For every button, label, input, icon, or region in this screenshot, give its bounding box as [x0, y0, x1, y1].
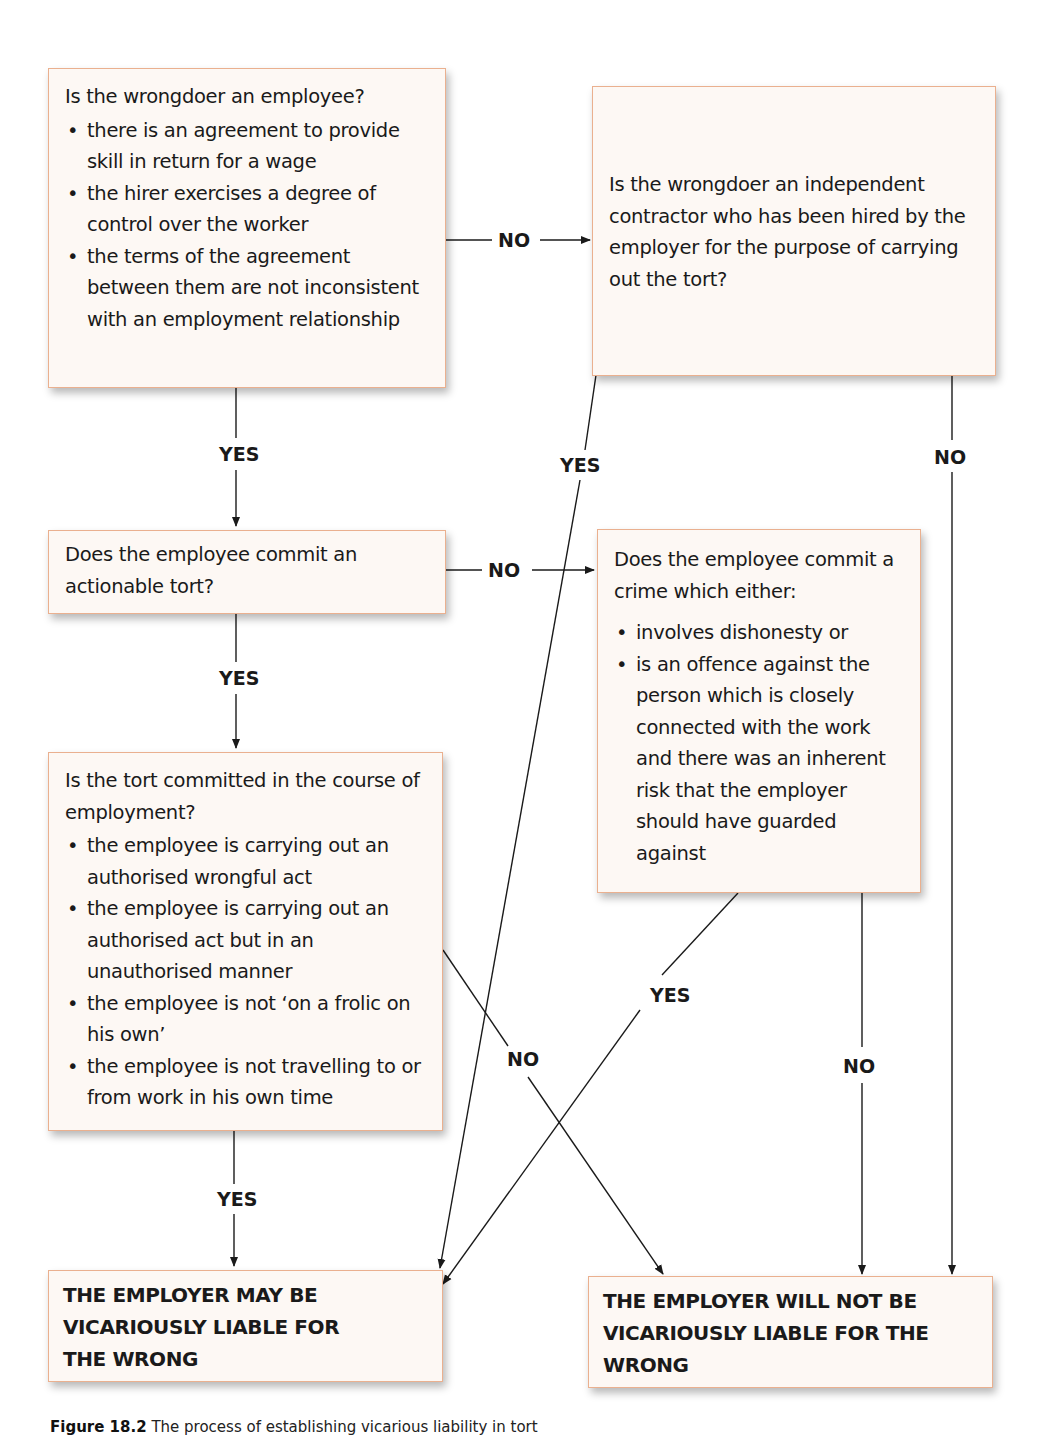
edge-label-contractor-yes: YES — [558, 454, 602, 476]
course-criteria-list: the employee is carrying out an authoris… — [65, 830, 434, 1114]
list-item: there is an agreement to provide skill i… — [87, 115, 431, 178]
list-item: the hirer exercises a degree of control … — [87, 178, 431, 241]
list-item: is an offence against the person which i… — [636, 649, 906, 870]
figure-caption: Figure 18.2 The process of establishing … — [50, 1418, 538, 1436]
edge-label-tort-no: NO — [486, 559, 522, 581]
list-item: the employee is carrying out an authoris… — [87, 893, 434, 988]
caption-label: Figure 18.2 — [50, 1418, 147, 1436]
edge-label-crime-yes: YES — [648, 984, 692, 1006]
employee-question: Is the wrongdoer an employee? — [65, 81, 431, 113]
list-item: the terms of the agreement between them … — [87, 241, 431, 336]
edge-label-crime-no: NO — [841, 1055, 877, 1077]
crime-criteria-list: involves dishonesty or is an offence aga… — [614, 617, 906, 869]
edge-label-employee-yes: YES — [217, 443, 261, 465]
crime-question-box: Does the employee commit a crime which e… — [597, 529, 921, 893]
crime-question: Does the employee commit a crime which e… — [614, 544, 906, 607]
caption-text: The process of establishing vicarious li… — [151, 1418, 537, 1436]
edge-label-employee-no: NO — [496, 229, 532, 251]
employee-question-box: Is the wrongdoer an employee? there is a… — [48, 68, 446, 388]
not-liable-outcome-text: THE EMPLOYER WILL NOT BE VICARIOUSLY LIA… — [603, 1289, 929, 1377]
liable-outcome-box: THE EMPLOYER MAY BE VICARIOUSLY LIABLE F… — [48, 1270, 443, 1382]
list-item: the employee is not ‘on a frolic on his … — [87, 988, 434, 1051]
contractor-question: Is the wrongdoer an independent contract… — [609, 169, 981, 295]
edge-label-tort-yes: YES — [217, 667, 261, 689]
contractor-question-box: Is the wrongdoer an independent contract… — [592, 86, 996, 376]
not-liable-outcome-box: THE EMPLOYER WILL NOT BE VICARIOUSLY LIA… — [588, 1276, 993, 1388]
employee-criteria-list: there is an agreement to provide skill i… — [65, 115, 431, 336]
edge-label-course-no: NO — [505, 1048, 541, 1070]
edge-label-contractor-no: NO — [932, 446, 968, 468]
edge-label-course-yes: YES — [215, 1188, 259, 1210]
list-item: the employee is carrying out an authoris… — [87, 830, 434, 893]
liable-outcome-text: THE EMPLOYER MAY BE VICARIOUSLY LIABLE F… — [63, 1283, 339, 1371]
course-question-box: Is the tort committed in the course of e… — [48, 752, 443, 1131]
tort-question-box: Does the employee commit an actionable t… — [48, 530, 446, 614]
list-item: involves dishonesty or — [636, 617, 906, 649]
list-item: the employee is not travelling to or fro… — [87, 1051, 434, 1114]
tort-question: Does the employee commit an actionable t… — [65, 539, 431, 602]
course-question: Is the tort committed in the course of e… — [65, 765, 434, 828]
